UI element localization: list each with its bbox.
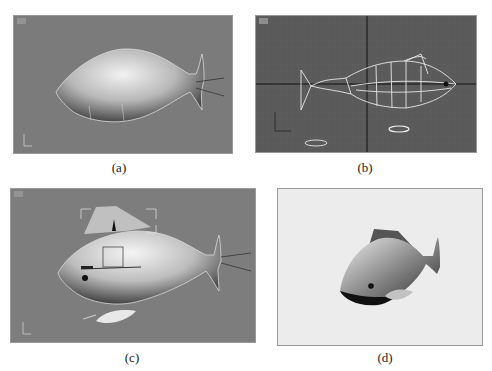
axis-tripod-icon	[23, 322, 31, 334]
viewport-b	[255, 15, 477, 153]
pelvic-fin	[96, 310, 136, 323]
viewport-a	[13, 15, 233, 154]
caption-a: (a)	[99, 160, 139, 176]
caption-d: (d)	[365, 350, 405, 366]
caption-c: (c)	[112, 350, 152, 366]
fish-eye	[82, 275, 88, 281]
caption-b: (b)	[345, 160, 385, 176]
dorsal-fin	[84, 206, 151, 234]
viewport-c	[10, 188, 256, 343]
fish-final-render-d	[278, 189, 483, 346]
fish-eye	[368, 283, 374, 289]
fish-shaded-render-a	[14, 16, 233, 154]
viewport-label-b	[259, 18, 268, 24]
render-d	[277, 188, 483, 346]
fish-shaded-render-c	[11, 189, 256, 343]
viewport-label-a	[17, 18, 26, 24]
viewport-label-c	[14, 191, 23, 197]
eye-marker	[444, 82, 449, 87]
fish-wireframe-b	[256, 16, 477, 153]
axis-tripod-icon	[24, 134, 32, 146]
